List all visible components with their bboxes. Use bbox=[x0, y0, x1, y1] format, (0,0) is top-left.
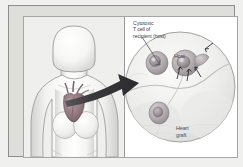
cytotoxic-t-cell bbox=[146, 52, 168, 75]
figure-frame: Cytotoxic T cell of recipient (host) Hos… bbox=[8, 5, 235, 157]
heart-highlight bbox=[66, 98, 72, 108]
graft-cell-nucleus bbox=[153, 107, 163, 117]
label-cytotoxic-t-cell: Cytotoxic T cell of recipient (host) bbox=[133, 20, 166, 39]
human-torso-panel bbox=[24, 17, 125, 157]
graft-cell bbox=[149, 102, 169, 124]
label-host: Host bbox=[174, 53, 185, 60]
label-heart-graft: Heart graft bbox=[176, 125, 189, 138]
torso-illustration bbox=[24, 17, 125, 157]
head-shape bbox=[53, 26, 95, 72]
figure-plate: Cytotoxic T cell of recipient (host) Hos… bbox=[23, 16, 238, 158]
t-cell-nucleus bbox=[150, 56, 161, 67]
figure-root: Cytotoxic T cell of recipient (host) Hos… bbox=[0, 0, 243, 167]
